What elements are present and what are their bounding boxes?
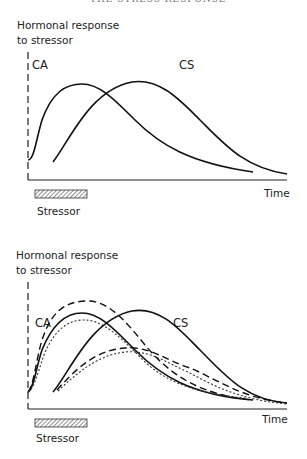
bottom-stressor-bar (35, 419, 87, 427)
bottom-cs-curve (53, 310, 287, 403)
top-chart (28, 52, 287, 198)
top-ca-curve (28, 84, 253, 172)
top-cs-curve (53, 82, 287, 174)
bottom-chart (28, 282, 287, 427)
charts-svg (0, 0, 307, 459)
top-stressor-bar (35, 190, 87, 198)
